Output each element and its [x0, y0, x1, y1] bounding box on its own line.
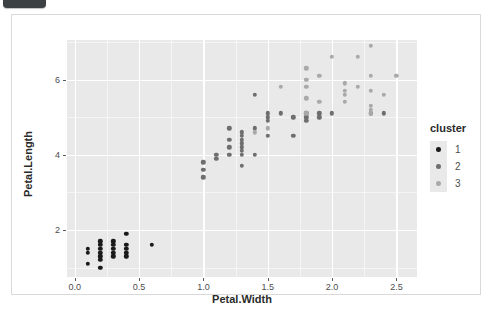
data-point-cluster-1: [111, 247, 115, 251]
data-point-cluster-2: [214, 153, 218, 157]
gridline-major-vertical: [268, 40, 269, 277]
legend-item-label: 3: [455, 178, 461, 189]
data-point-cluster-2: [304, 115, 308, 119]
gridline-minor-vertical: [107, 40, 108, 277]
legend-items: 123: [430, 141, 488, 192]
x-tick-mark: [75, 278, 76, 281]
data-point-cluster-3: [304, 66, 308, 70]
plot-panel: [67, 40, 417, 277]
data-point-cluster-3: [381, 92, 385, 96]
data-point-cluster-3: [253, 130, 257, 134]
data-point-cluster-1: [98, 265, 102, 269]
data-point-cluster-1: [111, 254, 115, 258]
data-point-cluster-3: [304, 77, 308, 81]
legend-key-swatch: [430, 141, 447, 158]
legend-item-1[interactable]: 1: [430, 141, 488, 158]
data-point-cluster-2: [240, 164, 244, 168]
data-point-cluster-1: [98, 247, 102, 251]
legend-dot-icon: [436, 164, 441, 169]
legend-dot-icon: [436, 147, 441, 152]
data-point-cluster-3: [304, 111, 308, 115]
data-point-cluster-2: [227, 153, 231, 157]
legend-dot-icon: [436, 181, 441, 186]
gridline-minor-horizontal: [67, 192, 417, 193]
data-point-cluster-2: [266, 119, 270, 123]
data-point-cluster-3: [343, 100, 347, 104]
data-point-cluster-3: [394, 74, 398, 78]
legend: cluster 123: [430, 122, 488, 192]
gridline-minor-vertical: [236, 40, 237, 277]
x-tick-mark: [396, 278, 397, 281]
x-tick-label: 2.0: [326, 282, 339, 292]
data-point-cluster-3: [304, 96, 308, 100]
legend-item-label: 1: [455, 144, 461, 155]
data-point-cluster-2: [201, 160, 205, 164]
data-point-cluster-3: [304, 85, 308, 89]
data-point-cluster-1: [111, 243, 115, 247]
data-point-cluster-2: [253, 92, 257, 96]
legend-key-swatch: [430, 175, 447, 192]
top-left-badge[interactable]: [3, 0, 46, 8]
data-point-cluster-1: [85, 247, 89, 251]
data-point-cluster-3: [368, 89, 372, 93]
gridline-minor-horizontal: [67, 42, 417, 43]
data-point-cluster-2: [291, 134, 295, 138]
data-point-cluster-3: [278, 85, 282, 89]
gridline-major-vertical: [139, 40, 140, 277]
data-point-cluster-3: [356, 85, 360, 89]
x-tick-label: 0.5: [133, 282, 146, 292]
data-point-cluster-2: [201, 168, 205, 172]
data-point-cluster-3: [266, 126, 270, 130]
data-point-cluster-2: [304, 119, 308, 123]
y-tick-mark: [63, 155, 66, 156]
gridline-minor-vertical: [300, 40, 301, 277]
data-point-cluster-1: [98, 243, 102, 247]
data-point-cluster-2: [214, 156, 218, 160]
x-tick-label: 1.5: [261, 282, 274, 292]
gridline-minor-horizontal: [67, 268, 417, 269]
data-point-cluster-1: [98, 258, 102, 262]
data-point-cluster-2: [240, 153, 244, 157]
y-tick-mark: [63, 230, 66, 231]
y-tick-label: 6: [39, 75, 60, 85]
data-point-cluster-2: [227, 145, 231, 149]
gridline-minor-vertical: [364, 40, 365, 277]
x-tick-mark: [203, 278, 204, 281]
data-point-cluster-1: [124, 243, 128, 247]
legend-key-swatch: [430, 158, 447, 175]
data-point-cluster-3: [368, 74, 372, 78]
data-point-cluster-3: [317, 74, 321, 78]
x-tick-label: 0.0: [68, 282, 81, 292]
gridline-minor-vertical: [171, 40, 172, 277]
x-tick-mark: [268, 278, 269, 281]
data-point-cluster-1: [111, 239, 115, 243]
data-point-cluster-2: [227, 126, 231, 130]
plot-card: 0.00.51.01.52.02.5246 Petal.Width Petal.…: [11, 14, 481, 295]
data-point-cluster-1: [124, 232, 128, 236]
y-tick-mark: [63, 80, 66, 81]
data-point-cluster-3: [330, 55, 334, 59]
legend-item-label: 2: [455, 161, 461, 172]
data-point-cluster-3: [317, 100, 321, 104]
data-point-cluster-2: [201, 175, 205, 179]
x-tick-label: 2.5: [390, 282, 403, 292]
gridline-major-horizontal: [67, 230, 417, 231]
data-point-cluster-1: [150, 243, 154, 247]
gridline-major-horizontal: [67, 80, 417, 81]
data-point-cluster-2: [266, 134, 270, 138]
data-point-cluster-2: [278, 111, 282, 115]
legend-title: cluster: [430, 122, 488, 134]
legend-item-3[interactable]: 3: [430, 175, 488, 192]
x-tick-label: 1.0: [197, 282, 210, 292]
data-point-cluster-1: [85, 250, 89, 254]
x-axis-title: Petal.Width: [67, 293, 417, 305]
legend-item-2[interactable]: 2: [430, 158, 488, 175]
data-point-cluster-2: [291, 115, 295, 119]
data-point-cluster-1: [85, 262, 89, 266]
data-point-cluster-2: [317, 115, 321, 119]
gridline-major-vertical: [75, 40, 76, 277]
gridline-major-vertical: [203, 40, 204, 277]
data-point-cluster-1: [98, 239, 102, 243]
x-tick-mark: [139, 278, 140, 281]
data-point-cluster-1: [124, 254, 128, 258]
